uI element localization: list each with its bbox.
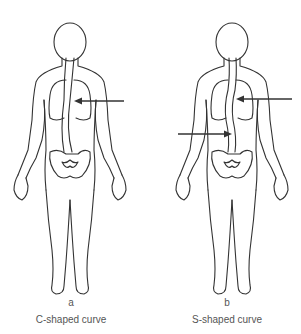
figure-letter: a [0,297,146,308]
arrow-icon-lumbar [150,0,300,300]
figure-caption: C-shaped curve [0,314,146,325]
figure-s-shaped-curve: b S-shaped curve [150,0,300,334]
figure-letter: b [152,297,301,308]
arrow-icon-thoracic [0,0,150,300]
figure-c-shaped-curve: a C-shaped curve [0,0,150,334]
figure-caption: S-shaped curve [152,314,301,325]
